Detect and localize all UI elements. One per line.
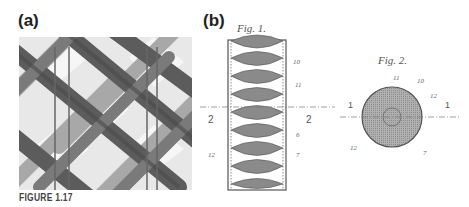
fig2-section-right: 1 bbox=[445, 100, 450, 110]
callout-12: 12 bbox=[208, 151, 216, 159]
fig2-drawing: Fig. 2. 1 1 11 10 12 12 7 bbox=[335, 50, 469, 174]
fig2-title: Fig. 2. bbox=[377, 54, 407, 66]
fig2-callout-10: 10 bbox=[417, 77, 425, 85]
fig2-callout-12-left: 12 bbox=[350, 144, 358, 152]
fig1-drawing: Fig. 1. 2 2 10 11 6 7 12 bbox=[200, 15, 335, 199]
fig2-callout-12-right: 12 bbox=[430, 92, 438, 100]
callout-6: 6 bbox=[296, 131, 300, 139]
fig1-section-left: 2 bbox=[208, 114, 214, 125]
lattice-photo bbox=[19, 37, 192, 190]
figure-caption: FIGURE 1.17 bbox=[19, 192, 73, 203]
fig1-title: Fig. 1. bbox=[236, 22, 266, 34]
callout-10: 10 bbox=[293, 58, 301, 66]
callout-7: 7 bbox=[296, 151, 300, 159]
fig2-callout-11: 11 bbox=[393, 74, 399, 82]
fig2-section-left: 1 bbox=[348, 100, 353, 110]
fig1-section-right: 2 bbox=[306, 114, 312, 125]
callout-11: 11 bbox=[295, 81, 301, 89]
panel-a-label: (a) bbox=[18, 11, 39, 31]
fig2-callout-7: 7 bbox=[423, 149, 427, 157]
